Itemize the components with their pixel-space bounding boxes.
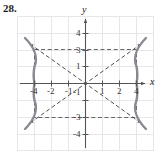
y-tick-label-neg1: -1 xyxy=(73,88,81,97)
x-tick-label-pos2: 2 xyxy=(117,87,122,96)
y-tick-label-pos4: 4 xyxy=(76,29,81,38)
y-axis-label: y xyxy=(82,5,86,15)
y-tick-label-neg3: -3 xyxy=(73,113,81,122)
x-tick-label-neg1: -1 xyxy=(65,87,73,96)
y-tick-label-pos3: 3 xyxy=(76,46,81,55)
x-tick-label-pos1: 1 xyxy=(100,87,105,96)
x-tick-label-neg4: -4 xyxy=(30,87,38,96)
x-tick-label-pos4: 4 xyxy=(134,87,139,96)
y-tick-label-pos1: 1 xyxy=(76,62,81,71)
x-tick-label-neg2: -2 xyxy=(47,87,55,96)
hyperbola-graph xyxy=(0,0,162,162)
x-axis-label: x xyxy=(150,77,154,87)
y-tick-label-neg4: -4 xyxy=(73,130,81,139)
axes xyxy=(20,19,145,148)
figure-container: 28. xyxy=(0,0,162,162)
